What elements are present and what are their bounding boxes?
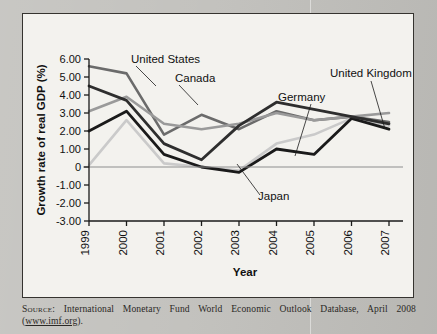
annotation-layer: United StatesCanadaGermanyJapanUnited Ki… [131,53,412,202]
x-axis-title: Year [233,266,258,278]
x-tick-label: 2003 [229,230,241,256]
series-label-united-states: United States [131,53,200,65]
y-tick-label: -2.00 [56,197,81,209]
x-tick-label: 2007 [379,230,391,256]
source-label: Source: [22,303,55,314]
source-link[interactable]: www.imf.org [25,315,77,326]
y-tick-label: 5.00 [60,71,81,83]
annotation-leader-japan [237,164,260,195]
annotation-leader-germany [295,104,311,156]
x-tick-label: 1999 [79,230,91,256]
annotation-leader-united-states [136,66,156,86]
series-label-canada: Canada [175,72,216,84]
series-layer [89,66,389,172]
figure-panel: 6.005.004.003.002.001.000-1.00-2.00-3.00… [22,13,414,298]
y-tick-label: 6.00 [60,53,81,65]
page-background: 6.005.004.003.002.001.000-1.00-2.00-3.00… [0,0,437,334]
x-tick-label: 2002 [192,230,204,256]
y-tick-label: 2.00 [60,125,81,137]
y-tick-label: 1.00 [60,143,81,155]
x-tick-label: 2005 [304,230,316,256]
x-tick-label: 2006 [342,230,354,256]
gdp-growth-line-chart: 6.005.004.003.002.001.000-1.00-2.00-3.00… [23,14,415,299]
x-tick-label: 2000 [117,230,129,256]
series-label-germany: Germany [278,91,326,103]
source-note: Source: International Monetary Fund Worl… [22,303,416,326]
y-tick-label: -1.00 [56,179,81,191]
y-tick-label: 0 [75,161,81,173]
y-tick-label: 3.00 [60,107,81,119]
source-tail: ). [77,315,83,326]
y-tick-label: -3.00 [56,215,81,227]
y-axis-title: Growth rate of real GDP (%) [35,64,47,215]
x-tick-label: 2001 [154,230,166,256]
x-tick-label: 2004 [267,229,279,255]
annotation-leader-canada [179,85,198,105]
y-tick-label: 4.00 [60,89,81,101]
series-label-japan: Japan [258,190,289,202]
series-label-united-kingdom: United Kingdom [330,67,412,79]
